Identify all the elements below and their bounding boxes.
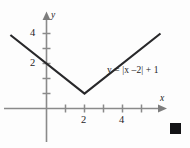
x-tick-label-2: 2: [81, 115, 86, 126]
y-tick-label-4: 4: [30, 28, 35, 39]
x-axis-label: x: [160, 94, 164, 104]
x-axis-arrow-icon: [158, 105, 167, 113]
y-axis-label: y: [51, 11, 55, 21]
plot-area: [0, 0, 190, 148]
equation-label: y = |x –2| + 1: [107, 66, 159, 76]
y-tick-label-2: 2: [30, 58, 35, 69]
y-axis-arrow-icon: [43, 12, 51, 21]
x-tick-label-4: 4: [119, 115, 124, 126]
end-of-problem-square-icon: [170, 123, 181, 134]
absolute-value-graph-figure: 4 2 2 4 y x y = |x –2| + 1: [0, 0, 190, 148]
